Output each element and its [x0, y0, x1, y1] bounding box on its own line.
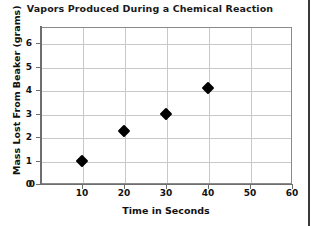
y-axis-line [40, 26, 42, 185]
gridline-horizontal [41, 138, 291, 139]
chart-figure: Vapors Produced During a Chemical Reacti… [0, 0, 313, 226]
y-axis-tick [36, 90, 40, 91]
gridline-horizontal [41, 44, 291, 45]
gridline-vertical [167, 28, 168, 183]
gridline-vertical [251, 28, 252, 183]
y-axis-tick [36, 161, 40, 162]
gridline-horizontal [41, 91, 291, 92]
x-axis-tick-label: 20 [109, 188, 139, 198]
page-edge-rule [308, 0, 310, 226]
chart-title: Vapors Produced During a Chemical Reacti… [0, 3, 300, 14]
x-axis-tick-label: 10 [67, 188, 97, 198]
x-axis-title: Time in Seconds [40, 205, 292, 216]
x-axis-tick-label: 40 [193, 188, 223, 198]
y-axis-tick [36, 43, 40, 44]
y-axis-tick [36, 137, 40, 138]
x-axis-tick-label: 50 [235, 188, 265, 198]
y-axis-title-wrap: Mass Lost From Beaker (grams) [11, 15, 25, 175]
x-axis-tick-label: 60 [277, 188, 307, 198]
gridline-horizontal [41, 68, 291, 69]
x-axis-tick-label: 30 [151, 188, 181, 198]
gridline-vertical [125, 28, 126, 183]
y-axis-tick [36, 67, 40, 68]
y-axis-title: Mass Lost From Beaker (grams) [11, 15, 22, 175]
gridline-vertical [209, 28, 210, 183]
y-axis-tick [36, 114, 40, 115]
x-axis-tick-label: 0 [17, 179, 47, 189]
